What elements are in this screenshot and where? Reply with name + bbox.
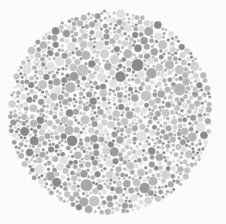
ishihara-plate-figure bbox=[0, 0, 226, 224]
ishihara-plate-canvas bbox=[0, 0, 226, 224]
